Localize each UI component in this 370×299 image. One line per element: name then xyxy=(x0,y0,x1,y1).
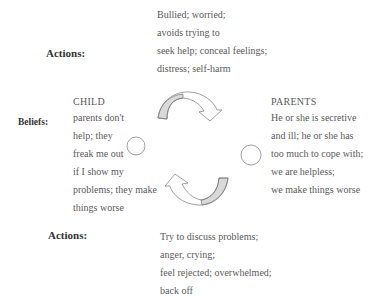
top-curved-arrow-icon xyxy=(158,92,222,121)
child-circle-icon xyxy=(127,137,145,155)
bottom-curved-arrow-icon xyxy=(165,174,228,205)
parents-circle-icon xyxy=(241,145,261,165)
cycle-diagram xyxy=(0,0,370,299)
